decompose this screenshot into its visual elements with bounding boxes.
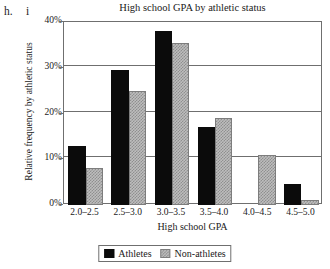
figure: h. i High school GPA by athletic status … <box>0 0 330 269</box>
bar-non-athletes <box>258 155 275 205</box>
legend-swatch-athletes <box>104 249 114 258</box>
x-axis-tick-label: 4.0–4.5 <box>236 207 279 218</box>
bar-groups <box>64 22 323 205</box>
y-axis-tick-label: 0% <box>22 199 62 209</box>
bar-group <box>150 22 193 205</box>
legend-label: Athletes <box>118 248 151 259</box>
bar-non-athletes <box>172 43 189 205</box>
bar-athletes <box>198 127 215 205</box>
part-label-outer: h. <box>4 6 13 18</box>
bar-group <box>194 22 237 205</box>
chart-title: High school GPA by athletic status <box>63 1 322 14</box>
bar-athletes <box>68 146 85 205</box>
bar-athletes <box>284 184 301 205</box>
y-axis-tick-label: 20% <box>22 108 62 118</box>
x-axis-tick-label: 3.5–4.0 <box>193 207 236 218</box>
bar-athletes <box>111 70 128 205</box>
y-axis-tick-mark <box>59 204 63 205</box>
legend-label: Non-athletes <box>175 248 226 259</box>
x-axis-tick-label: 3.0–3.5 <box>149 207 192 218</box>
bar-non-athletes <box>86 168 103 205</box>
bar-group <box>280 22 323 205</box>
legend-entry: Athletes <box>104 248 151 259</box>
legend-swatch-non-athletes <box>161 249 171 258</box>
x-axis-tick-label: 4.5–5.0 <box>279 207 322 218</box>
plot-area <box>63 21 322 204</box>
bar-non-athletes <box>215 118 232 205</box>
y-axis-tick-label: 10% <box>22 154 62 164</box>
x-axis-tick-label: 2.0–2.5 <box>63 207 106 218</box>
bar-group <box>107 22 150 205</box>
legend: AthletesNon-athletes <box>98 245 231 262</box>
bar-athletes <box>155 31 172 205</box>
legend-entry: Non-athletes <box>161 248 226 259</box>
bar-group <box>64 22 107 205</box>
x-axis-tick-label: 2.5–3.0 <box>106 207 149 218</box>
bar-group <box>237 22 280 205</box>
y-axis-tick-label: 30% <box>22 62 62 72</box>
y-axis-tick-label: 40% <box>22 16 62 26</box>
bar-non-athletes <box>301 200 318 205</box>
x-axis-label: High school GPA <box>63 221 322 233</box>
bar-non-athletes <box>129 91 146 205</box>
